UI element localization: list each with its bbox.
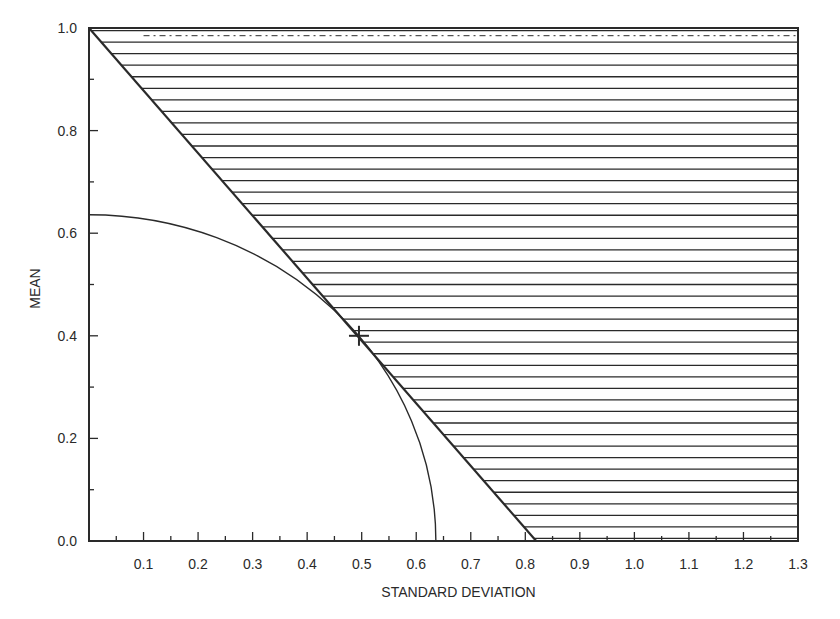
y-tick-label: 0.2 — [58, 430, 78, 446]
x-tick-label: 0.4 — [297, 556, 317, 572]
x-tick-label: 0.8 — [516, 556, 536, 572]
quarter-circle-curve — [89, 215, 436, 541]
x-tick-label: 0.1 — [134, 556, 154, 572]
y-tick-label: 0.0 — [58, 533, 78, 549]
x-tick-label: 0.5 — [352, 556, 372, 572]
x-tick-label: 1.1 — [679, 556, 699, 572]
y-tick-label: 0.6 — [58, 225, 78, 241]
chart: 0.10.20.30.40.50.60.70.80.91.01.11.21.30… — [0, 0, 840, 619]
x-tick-label: 1.0 — [625, 556, 645, 572]
x-tick-label: 1.2 — [734, 556, 754, 572]
x-tick-label: 0.6 — [406, 556, 426, 572]
y-tick-label: 1.0 — [58, 20, 78, 36]
x-tick-label: 0.2 — [188, 556, 208, 572]
x-axis-title: STANDARD DEVIATION — [381, 584, 535, 600]
x-tick-label: 1.3 — [788, 556, 808, 572]
x-tick-label: 0.9 — [570, 556, 590, 572]
y-tick-label: 0.8 — [58, 123, 78, 139]
y-tick-label: 0.4 — [58, 328, 78, 344]
x-tick-label: 0.7 — [461, 556, 481, 572]
x-tick-label: 0.3 — [243, 556, 263, 572]
y-axis-title: MEAN — [27, 268, 43, 308]
